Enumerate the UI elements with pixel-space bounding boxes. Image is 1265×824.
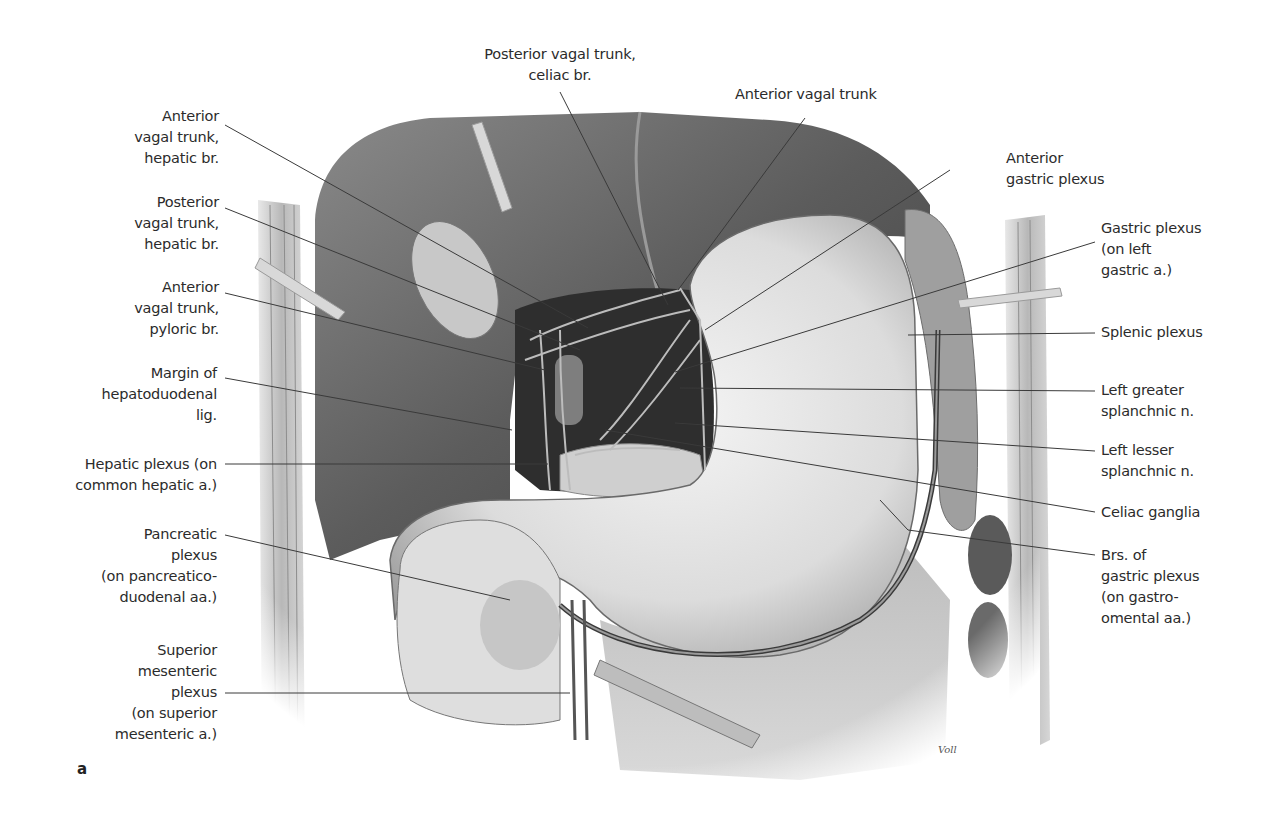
anatomical-figure: Anterior vagal trunk, hepatic br. Poster… (0, 0, 1265, 824)
label-anterior-vagal-trunk-pyloric-br: Anterior vagal trunk, pyloric br. (134, 277, 219, 340)
label-brs-of-gastric-plexus: Brs. of gastric plexus (on gastro- oment… (1101, 545, 1199, 629)
label-superior-mesenteric-plexus: Superior mesenteric plexus (on superior … (115, 640, 217, 745)
label-posterior-vagal-trunk-hepatic-br: Posterior vagal trunk, hepatic br. (134, 192, 219, 255)
label-anterior-vagal-trunk: Anterior vagal trunk (735, 84, 877, 105)
label-gastric-plexus-left-gastric-a: Gastric plexus (on left gastric a.) (1101, 218, 1201, 281)
label-anterior-vagal-trunk-hepatic-br: Anterior vagal trunk, hepatic br. (134, 106, 219, 169)
label-left-lesser-splanchnic-n: Left lesser splanchnic n. (1101, 440, 1194, 482)
label-posterior-vagal-trunk-celiac-br: Posterior vagal trunk, celiac br. (470, 44, 650, 86)
label-anterior-gastric-plexus: Anterior gastric plexus (1006, 148, 1104, 190)
artist-signature: Voll (938, 744, 957, 755)
label-pancreatic-plexus: Pancreatic plexus (on pancreatico- duode… (101, 524, 217, 608)
label-left-greater-splanchnic-n: Left greater splanchnic n. (1101, 380, 1194, 422)
label-margin-hepatoduodenal-lig: Margin of hepatoduodenal lig. (102, 363, 217, 426)
panel-letter: a (77, 760, 87, 778)
label-hepatic-plexus: Hepatic plexus (on common hepatic a.) (75, 454, 217, 496)
label-celiac-ganglia: Celiac ganglia (1101, 502, 1200, 523)
label-splenic-plexus: Splenic plexus (1101, 322, 1203, 343)
